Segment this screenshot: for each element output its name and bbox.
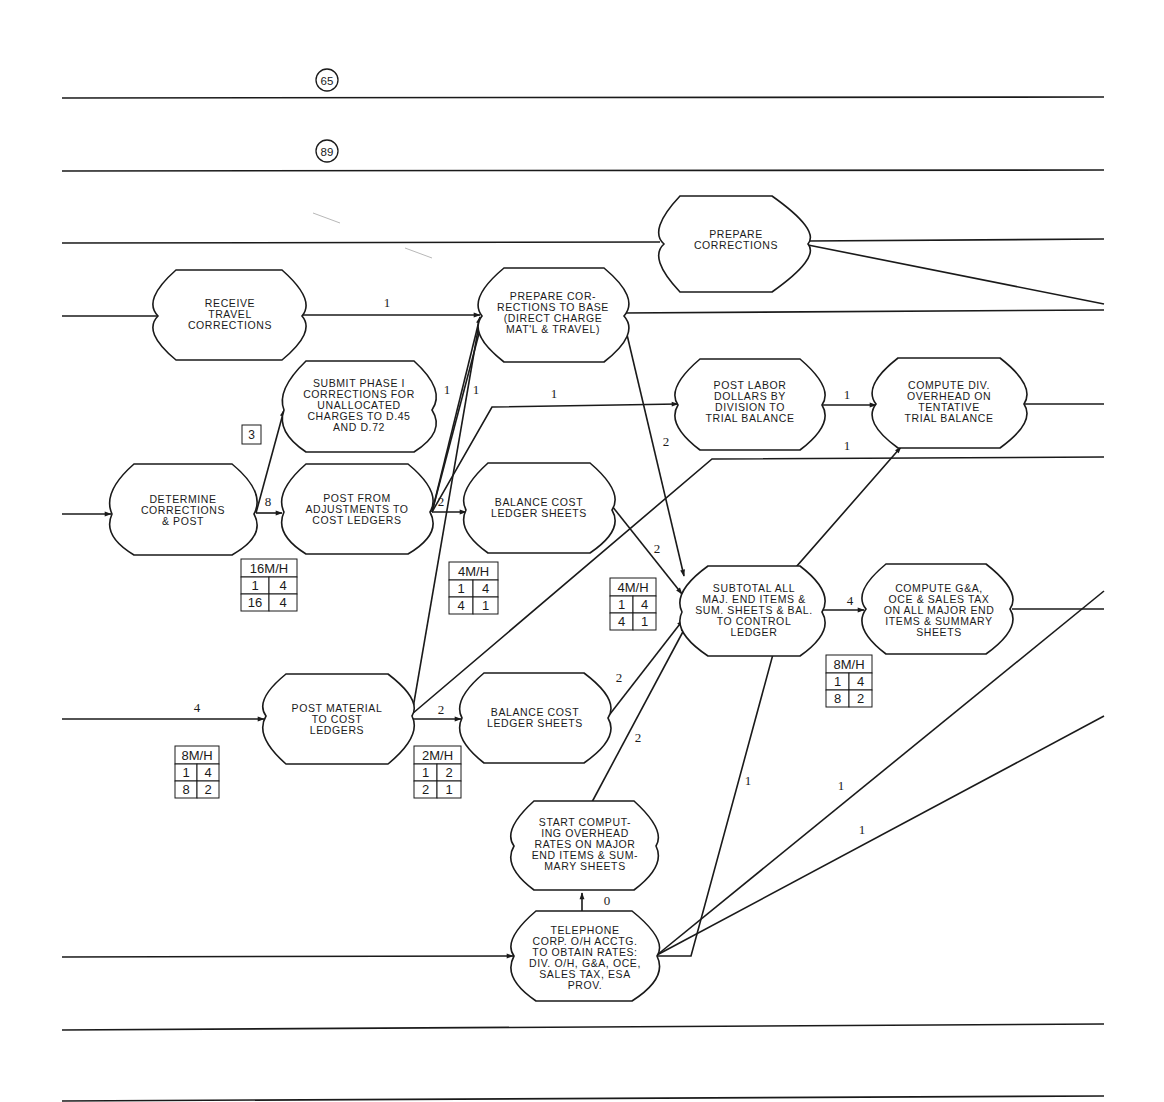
page-ref-number: 89	[321, 146, 334, 158]
mh-value: 2	[857, 691, 864, 706]
edge-label: 1	[444, 382, 451, 397]
mh-value: 4	[618, 614, 625, 629]
edge-label: 4	[847, 593, 854, 608]
edge-label: 2	[438, 494, 445, 509]
edge-prepare-corrections-diag	[808, 245, 1104, 304]
node-balance-cost-2[interactable]: BALANCE COST LEDGER SHEETS	[460, 673, 611, 763]
node-label-line: & POST	[162, 515, 204, 527]
mh-value: 4	[482, 581, 489, 596]
node-receive-travel[interactable]: RECEIVE TRAVEL CORRECTIONS	[153, 270, 306, 360]
node-label-line: LEDGER SHEETS	[491, 507, 587, 519]
node-determine[interactable]: DETERMINE CORRECTIONS & POST	[110, 464, 258, 555]
node-label-line: LEDGER SHEETS	[487, 717, 583, 729]
mh-value: 1	[618, 597, 625, 612]
edge-label: 1	[859, 822, 866, 837]
edge-label: 2	[616, 670, 623, 685]
node-label-line: MAT'L & TRAVEL)	[506, 323, 600, 335]
node-compute-ga[interactable]: COMPUTE G&A, OCE & SALES TAX ON ALL MAJO…	[862, 564, 1013, 654]
node-telephone[interactable]: TELEPHONE CORP. O/H ACCTG. TO OBTAIN RAT…	[511, 911, 660, 1001]
lane-line-2	[62, 170, 1104, 171]
edge-label: 2	[438, 702, 445, 717]
mh-value: 1	[457, 581, 464, 596]
edge-base-out	[622, 310, 1104, 313]
manhour-table-adjust: 16M/H 1 4 16 4	[241, 559, 297, 611]
manhour-table-material: 8M/H 1 4 8 2	[175, 746, 219, 798]
edge-label: 2	[654, 541, 661, 556]
mh-value: 2	[204, 782, 211, 797]
node-submit-phase[interactable]: SUBMIT PHASE I CORRECTIONS FOR UNALLOCAT…	[282, 361, 436, 452]
edge-label: 4	[194, 700, 201, 715]
mh-header: 16M/H	[250, 561, 288, 576]
manhour-table-balance-1: 4M/H 1 4 4 1	[449, 562, 498, 614]
node-label-line: AND D.72	[333, 421, 385, 433]
lane-line-bottom-1	[62, 1024, 1104, 1030]
edge-label: 2	[635, 730, 642, 745]
node-label-line: PROV.	[568, 979, 603, 991]
edge-prepare-corrections-out	[808, 239, 1104, 241]
node-label-line: SHEETS	[916, 626, 962, 638]
node-compute-div[interactable]: COMPUTE DIV. OVERHEAD ON TENTATIVE TRIAL…	[872, 358, 1027, 448]
manhour-table-subtotal: 4M/H 1 4 4 1	[610, 578, 656, 630]
mh-value: 16	[248, 595, 262, 610]
process-flow-diagram: 65 89	[0, 0, 1164, 1102]
mh-header: 2M/H	[422, 748, 453, 763]
mh-value: 4	[279, 595, 286, 610]
node-label-line: MARY SHEETS	[544, 860, 625, 872]
mh-value: 4	[204, 765, 211, 780]
node-label-line: TRIAL BALANCE	[705, 412, 794, 424]
mh-value: 8	[834, 691, 841, 706]
manhour-table-ga: 8M/H 1 4 8 2	[826, 655, 872, 707]
step-box-label: 3	[248, 428, 255, 442]
lane-line-bottom-2	[62, 1096, 1104, 1101]
mh-value: 8	[182, 782, 189, 797]
manhour-table-balance-2: 2M/H 1 2 2 1	[414, 746, 461, 798]
scan-mark	[313, 213, 340, 223]
node-label-line: LEDGER	[731, 626, 778, 638]
edge-label: 1	[384, 295, 391, 310]
node-label-line: CORRECTIONS	[694, 239, 778, 251]
node-start-computing[interactable]: START COMPUT- ING OVERHEAD RATES ON MAJO…	[511, 801, 659, 890]
edge-label: 2	[663, 434, 670, 449]
mh-value: 1	[422, 765, 429, 780]
mh-value: 1	[641, 614, 648, 629]
edge-input-telephone	[62, 956, 513, 957]
mh-value: 4	[857, 674, 864, 689]
edge-label: 1	[551, 386, 558, 401]
mh-value: 4	[457, 598, 464, 613]
mh-value: 1	[834, 674, 841, 689]
node-post-labor[interactable]: POST LABOR DOLLARS BY DIVISION TO TRIAL …	[675, 359, 825, 450]
edge-label: 0	[604, 893, 611, 908]
mh-value: 2	[422, 782, 429, 797]
edge-label: 1	[838, 778, 845, 793]
node-label-line: LEDGERS	[310, 724, 364, 736]
edge-label: 1	[473, 382, 480, 397]
page-ref-65: 65	[316, 69, 338, 91]
mh-value: 1	[251, 578, 258, 593]
mh-value: 1	[445, 782, 452, 797]
node-post-material[interactable]: POST MATERIAL TO COST LEDGERS	[263, 674, 415, 764]
edge-label: 8	[265, 494, 272, 509]
node-prepare-corrections[interactable]: PREPARE CORRECTIONS	[659, 196, 811, 292]
node-prepare-base[interactable]: PREPARE COR- RECTIONS TO BASE (DIRECT CH…	[478, 268, 629, 362]
mh-header: 4M/H	[458, 564, 489, 579]
page-ref-number: 65	[321, 75, 334, 87]
mh-header: 4M/H	[617, 580, 648, 595]
edge-label: 1	[844, 387, 851, 402]
node-label-line: COST LEDGERS	[312, 514, 401, 526]
mh-header: 8M/H	[181, 748, 212, 763]
mh-header: 8M/H	[833, 657, 864, 672]
mh-value: 1	[482, 598, 489, 613]
node-post-adjust[interactable]: POST FROM ADJUSTMENTS TO COST LEDGERS	[282, 464, 434, 554]
node-label-line: CORRECTIONS	[188, 319, 272, 331]
node-subtotal[interactable]: SUBTOTAL ALL MAJ. END ITEMS & SUM. SHEET…	[680, 566, 825, 656]
mh-value: 2	[445, 765, 452, 780]
lane-line-3	[62, 242, 660, 243]
mh-value: 4	[279, 578, 286, 593]
mh-value: 4	[641, 597, 648, 612]
mh-value: 1	[182, 765, 189, 780]
scan-mark	[405, 248, 432, 258]
node-balance-cost-1[interactable]: BALANCE COST LEDGER SHEETS	[464, 463, 616, 553]
edge-base-to-subtotal	[624, 322, 684, 576]
step-number-box: 3	[242, 425, 261, 444]
edge-label: 1	[745, 773, 752, 788]
